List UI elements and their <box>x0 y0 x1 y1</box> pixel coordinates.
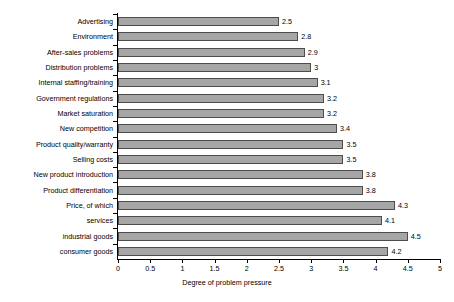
bar <box>118 247 388 256</box>
category-label: Advertising <box>77 17 113 26</box>
x-axis-tick <box>440 259 441 263</box>
category-label: After-sales problems <box>47 48 113 57</box>
category-label: consumer goods <box>60 247 113 256</box>
x-axis-tick <box>247 259 248 263</box>
x-axis-tick-label: 0.5 <box>135 264 165 273</box>
y-axis-tick <box>113 14 117 15</box>
x-axis-tick-label: 1.5 <box>200 264 230 273</box>
bar-value-label: 3.2 <box>327 109 337 118</box>
bar-value-label: 4.5 <box>411 232 421 241</box>
bar-value-label: 3.4 <box>340 124 350 133</box>
x-axis-title: Degree of problem pressure <box>0 278 454 287</box>
bar-value-label: 4.1 <box>385 216 395 225</box>
category-label: Product differentiation <box>43 186 113 195</box>
bar <box>118 78 318 87</box>
bar <box>118 124 337 133</box>
bar <box>118 109 324 118</box>
x-axis-tick <box>215 259 216 263</box>
horizontal-bar-chart: AdvertisingEnvironmentAfter-sales proble… <box>0 0 454 302</box>
x-axis-tick-label: 1 <box>167 264 197 273</box>
y-axis-tick <box>113 137 117 138</box>
bar-value-label: 3.8 <box>366 170 376 179</box>
category-label: Internal staffing/training <box>38 78 113 87</box>
x-axis-tick-label: 4.5 <box>393 264 423 273</box>
category-label: Price, of which <box>66 201 113 210</box>
y-axis-tick <box>113 60 117 61</box>
y-axis-tick <box>113 75 117 76</box>
bar-value-label: 2.5 <box>282 17 292 26</box>
bar <box>118 17 279 26</box>
x-axis-tick-label: 3.5 <box>328 264 358 273</box>
y-axis-tick <box>113 29 117 30</box>
category-label: New product introduction <box>33 170 113 179</box>
x-axis-tick <box>343 259 344 263</box>
y-axis-tick <box>113 106 117 107</box>
y-axis-tick <box>113 167 117 168</box>
bar-value-label: 3.5 <box>346 140 356 149</box>
x-axis-tick-label: 4 <box>361 264 391 273</box>
x-axis-tick <box>150 259 151 263</box>
bar-value-label: 3.8 <box>366 186 376 195</box>
bar <box>118 170 363 179</box>
bar-value-label: 3.2 <box>327 94 337 103</box>
x-axis-tick-label: 2.5 <box>264 264 294 273</box>
bar <box>118 140 343 149</box>
bar <box>118 48 305 57</box>
y-axis-tick <box>113 91 117 92</box>
x-axis-tick <box>311 259 312 263</box>
x-axis-tick <box>182 259 183 263</box>
category-label: industrial goods <box>63 232 113 241</box>
category-label: services <box>87 216 113 225</box>
bar <box>118 216 382 225</box>
x-axis-tick-label: 3 <box>296 264 326 273</box>
category-label: Selling costs <box>73 155 113 164</box>
bar-value-label: 3.5 <box>346 155 356 164</box>
x-axis-tick <box>279 259 280 263</box>
bar-value-label: 3 <box>314 63 318 72</box>
bar <box>118 63 311 72</box>
category-label: Environment <box>73 32 113 41</box>
bar <box>118 232 408 241</box>
x-axis-tick-label: 2 <box>232 264 262 273</box>
x-axis-tick <box>118 259 119 263</box>
bar-value-label: 3.1 <box>321 78 331 87</box>
y-axis-tick <box>113 121 117 122</box>
x-axis-tick-label: 5 <box>425 264 454 273</box>
category-label: New competition <box>60 124 113 133</box>
y-axis-tick <box>113 182 117 183</box>
x-axis-tick <box>376 259 377 263</box>
category-label: Market saturation <box>57 109 113 118</box>
x-axis-tick <box>408 259 409 263</box>
y-axis-tick <box>113 45 117 46</box>
category-label: Product quality/warranty <box>36 140 113 149</box>
y-axis-tick <box>113 198 117 199</box>
bar-value-label: 2.9 <box>308 48 318 57</box>
y-axis-tick <box>113 213 117 214</box>
bar <box>118 201 395 210</box>
y-axis-tick <box>113 152 117 153</box>
bar-value-label: 4.3 <box>398 201 408 210</box>
bar <box>118 94 324 103</box>
y-axis-tick <box>113 244 117 245</box>
category-label: Distribution problems <box>45 63 113 72</box>
x-axis-tick-label: 0 <box>103 264 133 273</box>
bar <box>118 32 298 41</box>
category-label: Government regulations <box>36 94 113 103</box>
bar <box>118 186 363 195</box>
y-axis-tick <box>113 228 117 229</box>
bar-value-label: 2.8 <box>301 32 311 41</box>
bar-value-label: 4.2 <box>391 247 401 256</box>
bar <box>118 155 343 164</box>
